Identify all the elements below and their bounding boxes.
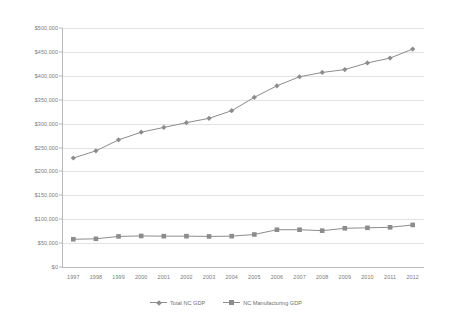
data-point-marker	[410, 46, 415, 51]
y-axis-tickmark	[59, 123, 62, 124]
data-point-marker	[388, 225, 393, 230]
data-point-marker	[207, 234, 212, 239]
y-axis-tickmark	[59, 99, 62, 100]
data-point-marker	[139, 130, 144, 135]
y-axis-tickmark	[59, 195, 62, 196]
data-point-marker	[365, 60, 370, 65]
legend-entry[interactable]: Total NC GDP	[150, 299, 205, 306]
data-point-marker	[162, 234, 167, 239]
data-point-marker	[93, 148, 98, 153]
data-point-marker	[320, 228, 325, 233]
data-point-marker	[161, 125, 166, 130]
y-axis-tickmark	[59, 75, 62, 76]
data-point-marker	[297, 227, 302, 232]
data-point-marker	[71, 155, 76, 160]
data-point-marker	[342, 67, 347, 72]
y-axis-tickmark	[59, 28, 62, 29]
legend-diamond-icon	[150, 299, 167, 306]
data-point-marker	[274, 83, 279, 88]
data-point-marker	[365, 226, 370, 231]
y-axis-tickmark	[59, 51, 62, 52]
series-line	[73, 49, 412, 158]
data-point-marker	[320, 70, 325, 75]
y-axis-tickmark	[59, 171, 62, 172]
data-point-marker	[252, 95, 257, 100]
data-point-marker	[343, 226, 348, 231]
chart-legend: Total NC GDPNC Manufacturing GDP	[0, 299, 452, 306]
data-point-marker	[410, 223, 415, 228]
data-point-marker	[387, 56, 392, 61]
data-point-marker	[139, 234, 144, 239]
data-point-marker	[184, 120, 189, 125]
data-point-marker	[297, 74, 302, 79]
series-line	[73, 225, 412, 239]
data-point-marker	[94, 236, 99, 241]
data-point-marker	[116, 137, 121, 142]
legend-label: NC Manufacturing GDP	[243, 300, 302, 306]
data-point-marker	[229, 234, 234, 239]
data-point-marker	[116, 234, 121, 239]
data-point-marker	[275, 227, 280, 232]
legend-label: Total NC GDP	[170, 300, 205, 306]
data-point-marker	[184, 234, 189, 239]
data-point-marker	[252, 232, 257, 237]
y-axis-tickmark	[59, 267, 62, 268]
data-point-marker	[229, 108, 234, 113]
data-point-marker	[71, 237, 76, 242]
data-point-marker	[206, 116, 211, 121]
series-layer	[0, 0, 452, 323]
gdp-line-chart: $0$50,000$100,000$150,000$200,000$250,00…	[0, 0, 452, 323]
y-axis-tickmark	[59, 243, 62, 244]
legend-entry[interactable]: NC Manufacturing GDP	[223, 299, 302, 306]
y-axis-tickmark	[59, 147, 62, 148]
legend-square-icon	[223, 299, 240, 306]
y-axis-tickmark	[59, 219, 62, 220]
